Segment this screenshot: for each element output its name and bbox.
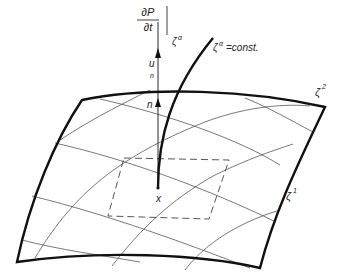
- u-subscript: n: [150, 72, 154, 79]
- u-label: u: [149, 58, 155, 69]
- svg-text:=const.: =const.: [226, 42, 259, 53]
- svg-text:∂P: ∂P: [142, 6, 155, 18]
- n-arrowhead: [155, 98, 161, 107]
- svg-text:α: α: [178, 34, 183, 41]
- surface-diagram: ∂P ∂t ζ α ζ α =const. u n n x ζ 2 ζ 1: [0, 0, 345, 280]
- zeta1-sup: 1: [293, 187, 297, 194]
- svg-text:∂t: ∂t: [144, 21, 153, 33]
- zeta1-label: ζ: [286, 190, 292, 203]
- point-x: [157, 187, 160, 190]
- zeta2-label: ζ: [315, 86, 321, 99]
- x-label: x: [155, 193, 162, 204]
- zeta-const-label: ζ α =const.: [213, 40, 259, 54]
- tangent-plane: [108, 158, 229, 219]
- zeta-alpha-const-curve: [158, 38, 213, 188]
- n-label: n: [147, 99, 153, 110]
- zeta2-sup: 2: [321, 83, 326, 90]
- partial-derivative-label: ∂P ∂t ζ α: [137, 6, 183, 48]
- svg-text:α: α: [219, 40, 224, 47]
- u-arrowhead: [155, 48, 161, 58]
